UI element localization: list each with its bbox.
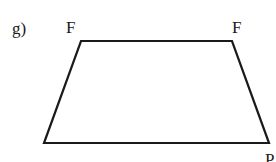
- trapezoid-outline: [44, 41, 269, 143]
- trapezoid-diagram: [0, 0, 276, 162]
